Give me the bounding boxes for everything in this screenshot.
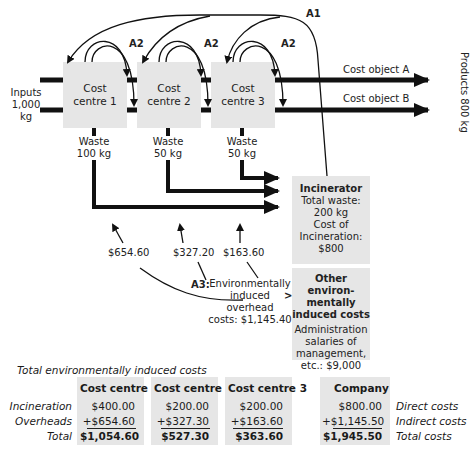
divider bbox=[233, 428, 283, 429]
cost-centre-3-label: Costcentre 3 bbox=[211, 82, 275, 108]
right-label-direct: Direct costs bbox=[396, 400, 458, 412]
inputs-label: Inputs 1,000 kg bbox=[6, 87, 46, 123]
cost-object-a-label: Cost object A bbox=[343, 64, 409, 76]
divider bbox=[333, 428, 382, 429]
col-header: Cost centre 1 bbox=[80, 382, 159, 394]
divider bbox=[87, 428, 136, 429]
label-a2-1: A2 bbox=[129, 38, 144, 50]
label-a2-2: A2 bbox=[204, 38, 219, 50]
divider bbox=[161, 428, 210, 429]
row-label-total: Total bbox=[0, 430, 72, 442]
label-a1: A1 bbox=[306, 8, 321, 20]
label-a2-3: A2 bbox=[281, 38, 296, 50]
overhead-2-value: $327.20 bbox=[173, 247, 214, 259]
cost-centre-1-label: Costcentre 1 bbox=[63, 82, 127, 108]
products-label: Products 800 kg bbox=[458, 52, 470, 142]
waste-3-label: Waste50 kg bbox=[222, 136, 262, 160]
summary-title: Total environmentally induced costs bbox=[17, 364, 207, 376]
overhead-3-value: $163.60 bbox=[223, 247, 264, 259]
right-label-indirect: Indirect costs bbox=[396, 415, 467, 427]
incinerator-title: Incinerator bbox=[292, 183, 370, 195]
waste-1-label: Waste100 kg bbox=[74, 136, 114, 160]
incinerator-text: Incinerator Total waste: 200 kg Cost of … bbox=[292, 183, 370, 255]
cost-object-b-label: Cost object B bbox=[343, 93, 409, 105]
row-label-incineration: Incineration bbox=[0, 400, 72, 412]
waste-2-label: Waste50 kg bbox=[148, 136, 188, 160]
cost-centre-2-label: Costcentre 2 bbox=[137, 82, 201, 108]
overhead-note: Environmentally induced overhead costs: … bbox=[205, 278, 295, 326]
right-label-total: Total costs bbox=[396, 430, 452, 442]
row-label-overheads: Overheads bbox=[0, 415, 72, 427]
other-costs-text: Other environ- mentally induced costs Ad… bbox=[292, 273, 370, 372]
overhead-1-value: $654.60 bbox=[108, 247, 149, 259]
